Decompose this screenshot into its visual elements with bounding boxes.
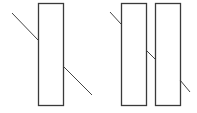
double-slab-figure (110, 4, 190, 106)
slab-rect (39, 4, 64, 106)
ray-segment (110, 12, 121, 24)
single-slab-figure (12, 4, 92, 106)
ray-segment (63, 66, 92, 95)
slab-rect (122, 4, 147, 106)
ray-segment (146, 50, 155, 59)
diagram-canvas (0, 0, 197, 113)
ray-segment (12, 13, 38, 40)
slab-rect (156, 4, 181, 106)
ray-segment (180, 80, 190, 92)
